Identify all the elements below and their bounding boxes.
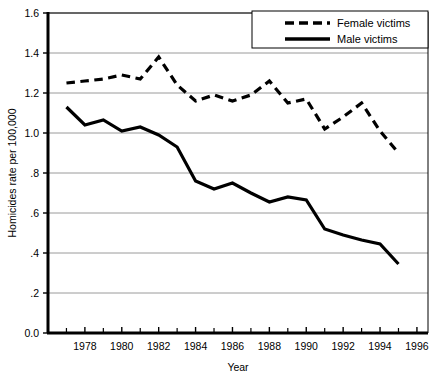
- x-tick-label: 1988: [258, 340, 282, 352]
- y-tick-label: 1.6: [24, 7, 39, 19]
- x-tick-label: 1986: [221, 340, 245, 352]
- y-tick-label: .4: [30, 247, 39, 259]
- chart-legend: Female victims Male victims: [252, 11, 428, 48]
- chart-background: [0, 0, 439, 385]
- y-tick-label: 1.4: [24, 47, 39, 59]
- x-tick-label: 1984: [184, 340, 208, 352]
- y-tick-label: .6: [30, 207, 39, 219]
- chart-container: 0.0.2.4.6.81.01.21.41.6 1978198019821984…: [0, 0, 439, 385]
- x-tick-label: 1992: [331, 340, 355, 352]
- y-tick-label: .2: [30, 287, 39, 299]
- x-tick-label: 1994: [368, 340, 392, 352]
- legend-label-female: Female victims: [337, 17, 411, 29]
- x-tick-label: 1996: [405, 340, 429, 352]
- y-tick-label: 0.0: [24, 327, 39, 339]
- x-tick-label: 1978: [73, 340, 97, 352]
- x-tick-label: 1982: [147, 340, 171, 352]
- y-tick-label: 1.2: [24, 87, 39, 99]
- x-tick-label: 1980: [110, 340, 134, 352]
- y-axis-title: Homicides rate per 100,000: [6, 108, 18, 237]
- y-tick-label: 1.0: [24, 127, 39, 139]
- homicide-rate-line-chart: 0.0.2.4.6.81.01.21.41.6 1978198019821984…: [0, 0, 439, 385]
- legend-label-male: Male victims: [337, 33, 398, 45]
- y-tick-label: .8: [30, 167, 39, 179]
- x-tick-label: 1990: [295, 340, 319, 352]
- x-axis-title: Year: [227, 361, 249, 373]
